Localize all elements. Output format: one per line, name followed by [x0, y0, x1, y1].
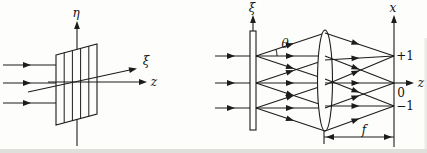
- z-axis-arrowhead-icon: [139, 79, 147, 85]
- theta-angle-label: θ: [281, 37, 289, 51]
- xi-axis-arrowhead-icon: [129, 66, 138, 73]
- figure-diffraction-grating-and-lens: η ξ z: [0, 0, 427, 153]
- z-axis-label: z: [417, 76, 425, 90]
- left-grating-diagram: η ξ z: [3, 6, 158, 146]
- page-edge-shadow-bottom: [0, 149, 427, 153]
- dimension-arrowhead-icon: [384, 134, 392, 140]
- x-axis-arrowhead-icon: [391, 15, 397, 23]
- ray-arrowhead-icon: [351, 87, 361, 95]
- ray-arrowhead-icon: [23, 80, 31, 86]
- ray-arrowhead-icon: [227, 105, 235, 111]
- eta-axis-label: η: [72, 6, 80, 20]
- diagram-canvas: η ξ z: [0, 0, 427, 153]
- ray-arrowhead-icon: [351, 55, 359, 61]
- ray-arrowhead-icon: [23, 62, 31, 68]
- ray-arrowhead-icon: [286, 105, 294, 111]
- theta-angle-arc: [276, 49, 277, 56]
- ray-arrowhead-icon: [286, 53, 294, 59]
- order-minus-one-label: −1: [396, 99, 414, 113]
- xi-axis-label: ξ: [143, 54, 151, 68]
- ray-arrowhead-icon: [227, 53, 235, 59]
- ray-arrowhead-icon: [285, 115, 294, 123]
- z-axis-label: z: [150, 75, 158, 89]
- ray-arrowhead-icon: [351, 39, 360, 47]
- xi-axis-arrowhead-icon: [250, 15, 256, 23]
- eta-axis-arrowhead-icon: [74, 21, 80, 29]
- ray-arrowhead-icon: [286, 80, 294, 86]
- z-axis-arrowhead-icon: [406, 80, 414, 86]
- order-plus-one-label: +1: [396, 49, 414, 63]
- ray-arrowhead-icon: [351, 93, 360, 101]
- ray-arrowhead-icon: [23, 100, 31, 106]
- ray-arrowhead-icon: [352, 80, 360, 86]
- xi-axis-label: ξ: [249, 1, 257, 15]
- order-zero-label: 0: [397, 86, 405, 100]
- ray-arrowhead-icon: [352, 103, 360, 109]
- focal-length-label: f: [361, 123, 369, 137]
- dimension-arrowhead-icon: [326, 134, 334, 140]
- ray-arrowhead-icon: [227, 80, 235, 86]
- x-axis-label: x: [390, 1, 397, 15]
- right-grating-lens-diagram: ξ x z θ +1 0 −1 f: [215, 1, 425, 147]
- grating-plate: [250, 31, 256, 130]
- ray-arrowhead-icon: [351, 116, 360, 124]
